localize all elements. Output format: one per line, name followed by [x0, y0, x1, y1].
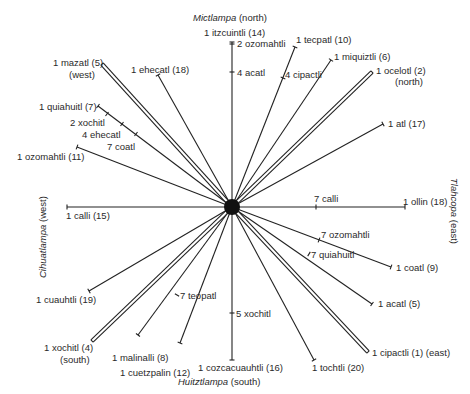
ray-line [98, 106, 232, 207]
ray-line [180, 207, 232, 343]
tick-label-2-xochitl: 2 xochitl [70, 117, 105, 128]
west-name: Cihuatlampa [37, 225, 48, 278]
west-suffix: (west) [37, 196, 48, 222]
ray-label-cozcacuauhtli: 1 cozcacuauhtli (16) [198, 362, 283, 373]
ray-label-calli: 1 calli (15) [66, 210, 110, 221]
ray-label-miquiztli: 1 miquiztli (6) [334, 51, 391, 62]
north-direction-label: Mictlampa (north) [193, 12, 267, 23]
ray-label-malinalli: 1 malinalli (8) [112, 352, 169, 363]
ray-label-mazatl: 1 mazatl (5) [53, 57, 103, 68]
west-direction-label: Cihuatlampa (west) [37, 196, 48, 278]
ray-label-quiahuitl: 1 quiahuitl (7) [39, 101, 97, 112]
south-suffix: (south) [231, 376, 261, 387]
double-ray-line [103, 63, 233, 206]
tick-label-4-ehecatl: 4 ehecatl [82, 129, 121, 140]
tick-mark [308, 252, 311, 256]
tick-label-7-teopatl: 7 teopatl [180, 290, 216, 301]
ray-label-itzcuintli: 1 itzcuintli (14) [204, 27, 265, 38]
east-name: Tlahcopa [449, 178, 460, 217]
ray-label-ehecatl: 1 ehecatl (18) [131, 64, 189, 75]
ray-end-tick [371, 302, 374, 306]
ray-label-ozomahtli: 1 ozomahtli (11) [17, 151, 84, 162]
ray-line [77, 147, 232, 207]
ray-label-ollin: 1 ollin (18) [403, 196, 447, 207]
ray-sub-ocelotl: (north) [395, 76, 423, 87]
double-ray-line [91, 206, 231, 340]
north-suffix: (north) [239, 12, 267, 23]
double-ray-line [233, 206, 369, 351]
tick-label-4-cipactli: 4 cipactli [285, 69, 322, 80]
ray-label-xochitl: 1 xochitl (4) [44, 342, 93, 353]
tick-label-4-acatl: 4 acatl [237, 67, 265, 78]
double-ray-line [231, 71, 371, 206]
east-direction-label: Tlahcopa (east) [449, 178, 460, 244]
tick-label-2-ozomahtli: 2 ozomahtli [237, 38, 286, 49]
ray-sub-mazatl: (west) [69, 69, 95, 80]
ray-label-atl: 1 atl (17) [388, 118, 426, 129]
ray-label-ocelotl: 1 ocelotl (2) [376, 65, 426, 76]
ray-label-acatl: 1 acatl (5) [378, 298, 420, 309]
south-direction-label: Huitztlampa (south) [178, 376, 260, 387]
double-ray-line [93, 208, 233, 342]
ray-label-tochtli: 1 tochtli (20) [312, 362, 364, 373]
tick-label-7-calli: 7 calli [314, 193, 338, 204]
north-name: Mictlampa [193, 12, 236, 23]
tick-mark [175, 294, 179, 297]
tick-label-5-xochitl: 5 xochitl [236, 308, 271, 319]
ray-label-cipactli: 1 cipactli (1) (east) [372, 347, 450, 358]
tick-label-7-coatl: 7 coatl [107, 141, 135, 152]
east-suffix: (east) [449, 220, 460, 244]
ray-label-cuauhtli: 1 cuauhtli (19) [36, 294, 96, 305]
ray-label-tecpatl: 1 tecpatl (10) [296, 34, 351, 45]
ray-label-cuetzpalin: 1 cuetzpalin (12) [120, 367, 190, 378]
ray-sub-xochitl: (south) [60, 354, 90, 365]
tick-label-7-ozomahtli: 7 ozomahtli [321, 229, 370, 240]
center-hub [224, 199, 240, 215]
ray-line [138, 207, 232, 335]
ray-label-coatl: 1 coatl (9) [396, 262, 438, 273]
tick-label-7-quiahuitl: 7 quiahuitl [311, 249, 354, 260]
